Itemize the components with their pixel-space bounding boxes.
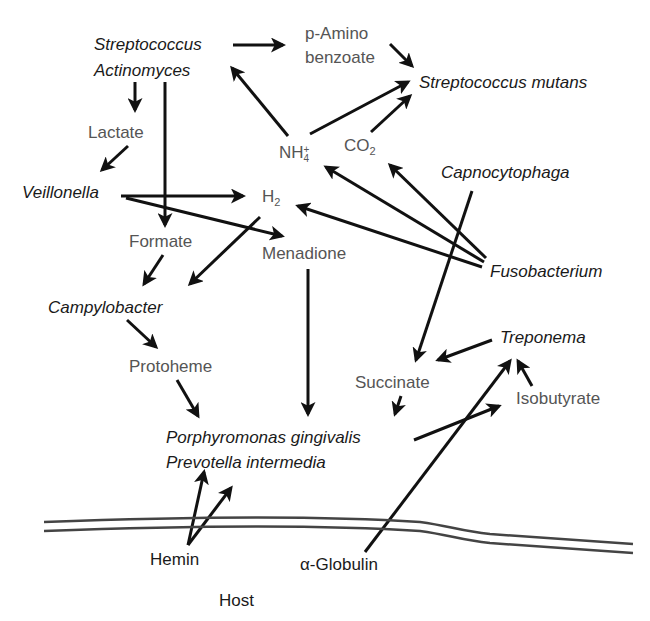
label-fusobacterium: Fusobacterium xyxy=(490,262,602,282)
arrow-nh4-to-actinomyces xyxy=(232,68,288,136)
arrow-campylobacter-to-protoheme xyxy=(127,320,156,347)
label-campylobacter: Campylobacter xyxy=(48,298,162,318)
label-h2: H2 xyxy=(262,187,280,207)
label-actinomyces: Actinomyces xyxy=(94,61,190,81)
label-hemin: Hemin xyxy=(150,550,199,570)
label-formate: Formate xyxy=(129,232,192,252)
arrow-isobutyrate-to-treponema xyxy=(518,361,532,386)
host-membrane xyxy=(44,517,633,553)
arrow-formate-to-campylobacter xyxy=(144,255,163,284)
label-streptococcus-mutans: Streptococcus mutans xyxy=(419,73,587,93)
label-protoheme: Protoheme xyxy=(129,357,212,377)
label-streptococcus: Streptococcus xyxy=(94,35,202,55)
label-co2: CO2 xyxy=(344,136,376,156)
h2-base: H xyxy=(262,187,274,206)
arrow-nh4-to-smutans xyxy=(310,82,408,134)
label-benzoate: benzoate xyxy=(305,48,375,68)
arrow-co2-to-smutans xyxy=(371,96,410,132)
arrow-paminobenzoate-to-smutans xyxy=(390,44,412,66)
arrow-h2-to-campylobacter xyxy=(190,217,260,284)
co2-base: CO xyxy=(344,136,370,155)
label-prevotella-intermedia: Prevotella intermedia xyxy=(166,453,326,473)
label-p-amino: p-Amino xyxy=(305,24,368,44)
label-veillonella: Veillonella xyxy=(22,183,99,203)
bacterial-interaction-diagram: Streptococcus Actinomyces Streptococcus … xyxy=(0,0,650,621)
nh4-sub: 4 xyxy=(304,154,310,163)
co2-sub: 2 xyxy=(370,145,376,157)
nh4-base: NH xyxy=(279,143,304,162)
label-isobutyrate: Isobutyrate xyxy=(516,389,600,409)
label-capnocytophaga: Capnocytophaga xyxy=(441,163,570,183)
label-menadione: Menadione xyxy=(262,244,346,264)
label-succinate: Succinate xyxy=(355,373,430,393)
label-host: Host xyxy=(219,591,254,611)
label-alpha-globulin: α-Globulin xyxy=(300,555,378,575)
label-lactate: Lactate xyxy=(88,123,144,143)
arrow-treponema-to-succinate xyxy=(438,340,492,360)
arrow-lactate-to-veillonella xyxy=(102,146,128,170)
label-porphyromonas-gingivalis: Porphyromonas gingivalis xyxy=(166,428,361,448)
label-nh4: NH+4 xyxy=(279,143,309,163)
label-treponema: Treponema xyxy=(500,328,586,348)
arrow-pgingivalis-to-isobutyrate xyxy=(414,406,499,440)
arrow-succinate-to-pgingivalis xyxy=(395,396,401,414)
arrow-protoheme-to-pgingivalis xyxy=(177,380,198,416)
h2-sub: 2 xyxy=(274,196,280,208)
